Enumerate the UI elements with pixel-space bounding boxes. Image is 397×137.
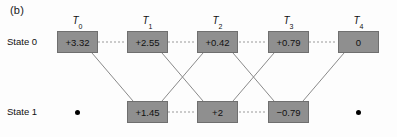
figure-panel: (b) T0 T1 T2 T3 T4 State 0 State 1 +3.32… [0,0,397,137]
node-state0-t3[interactable]: +0.79 [268,31,309,53]
node-state1-t3[interactable]: −0.79 [268,101,309,123]
node-state1-t0-dot [75,110,80,115]
column-header-t2-sub: 2 [219,23,223,30]
column-header-t4: T4 [338,15,379,28]
node-state1-t2[interactable]: +2 [197,101,238,123]
column-header-t1: T1 [127,15,168,28]
column-header-t2-base: T [212,15,218,26]
column-header-t0-base: T [72,15,78,26]
column-header-t0-sub: 0 [79,23,83,30]
column-header-t3-base: T [283,15,289,26]
row-label-state0: State 0 [7,36,37,47]
column-header-t1-base: T [142,15,148,26]
node-state0-t0[interactable]: +3.32 [57,31,98,53]
node-state0-t4[interactable]: 0 [338,31,379,53]
node-state1-t4-dot [356,110,361,115]
column-header-t0: T0 [57,15,98,28]
node-state0-t1[interactable]: +2.55 [127,31,168,53]
column-header-t4-base: T [353,15,359,26]
solid-edges [92,53,344,101]
node-state1-t1[interactable]: +1.45 [127,101,168,123]
node-state0-t2[interactable]: +0.42 [197,31,238,53]
column-header-t1-sub: 1 [149,23,153,30]
column-header-t2: T2 [197,15,238,28]
column-header-t3-sub: 3 [290,23,294,30]
column-header-t3: T3 [268,15,309,28]
panel-label: (b) [10,4,24,16]
row-label-state1: State 1 [7,106,37,117]
column-header-t4-sub: 4 [360,23,364,30]
